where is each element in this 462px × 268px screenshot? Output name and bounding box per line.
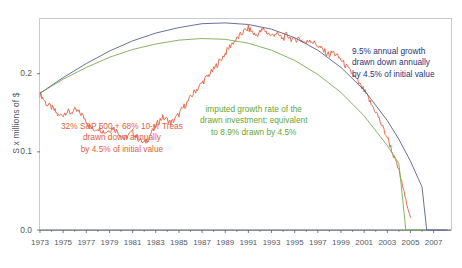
x-tick-label: 1975: [50, 238, 76, 247]
x-tick-label: 1983: [143, 238, 169, 247]
annotation-nominal-growth: 9.5% annual growthdrawn down annuallyby …: [352, 46, 435, 80]
x-tick-label: 1997: [305, 238, 331, 247]
x-tick-label: 2007: [421, 238, 447, 247]
annotation-actual-portfolio: 32% S&P 500 + 68% 10-yr Treasdrawn down …: [61, 121, 183, 155]
x-tick-label: 1989: [212, 238, 238, 247]
x-tick-label: 2001: [351, 238, 377, 247]
annotation-line: imputed growth rate of the: [200, 104, 307, 115]
annotation-line: to 8.9% drawn by 4.5%: [200, 127, 307, 138]
y-tick-label: 0.2: [8, 68, 32, 78]
x-tick-label: 1999: [328, 238, 354, 247]
x-tick-label: 1985: [166, 238, 192, 247]
x-tick-label: 1973: [27, 238, 53, 247]
x-tick-label: 1991: [235, 238, 261, 247]
annotation-line: drawn down annually: [61, 132, 183, 143]
y-tick-label: 0.1: [8, 146, 32, 156]
x-tick-label: 1995: [282, 238, 308, 247]
annotation-line: by 4.5% of initial value: [61, 144, 183, 155]
chart-container: S x millions of $ 0.00.10.2 197319751977…: [0, 0, 462, 268]
x-tick-label: 1979: [96, 238, 122, 247]
annotation-imputed-growth: imputed growth rate of thedrawn investme…: [200, 104, 307, 138]
annotation-line: 32% S&P 500 + 68% 10-yr Treas: [61, 121, 183, 132]
x-tick-label: 1977: [73, 238, 99, 247]
x-tick-label: 1981: [120, 238, 146, 247]
annotation-line: 9.5% annual growth: [352, 46, 435, 57]
x-tick-label: 1993: [259, 238, 285, 247]
x-tick-label: 2003: [374, 238, 400, 247]
annotation-line: by 4.5% of initial value: [352, 69, 435, 80]
x-tick-label: 2005: [397, 238, 423, 247]
x-tick-label: 1987: [189, 238, 215, 247]
annotation-line: drawn down annually: [352, 57, 435, 68]
y-tick-label: 0.0: [8, 225, 32, 235]
annotation-line: drawn investment: equivalent: [200, 115, 307, 126]
